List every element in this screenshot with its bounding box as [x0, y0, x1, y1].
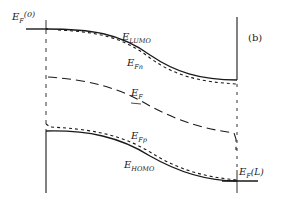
efp-label: EFp	[130, 130, 148, 144]
lumo-label: ELUMO	[121, 31, 151, 45]
ef0-label: EF(0)	[11, 10, 35, 25]
ef-label-underline	[131, 103, 141, 104]
homo-label: EHOMO	[123, 159, 155, 173]
panel-label: (b)	[248, 32, 262, 43]
efl-label: EF(L)	[238, 166, 264, 180]
efn-label: EFn	[126, 57, 143, 71]
energy-band-diagram: EF(0) ELUMO EFn EF EFp EHOMO EF(L) (b)	[0, 0, 283, 204]
